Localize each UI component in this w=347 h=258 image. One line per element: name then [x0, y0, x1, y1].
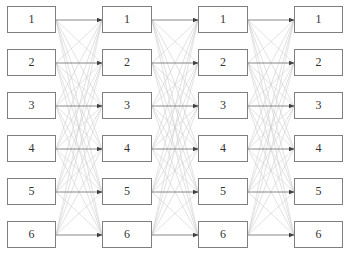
node-col1-row3: 3 — [7, 92, 56, 119]
node-col4-row3: 3 — [294, 92, 343, 119]
node-col2-row5: 5 — [102, 178, 152, 205]
cross-edges — [56, 20, 294, 235]
node-col2-row1: 1 — [102, 6, 152, 33]
node-col4-row1: 1 — [294, 6, 343, 33]
node-col1-row6: 6 — [7, 221, 56, 248]
node-col3-row2: 2 — [198, 49, 248, 76]
diagram-canvas — [0, 0, 347, 258]
node-col1-row4: 4 — [7, 135, 56, 162]
node-col3-row5: 5 — [198, 178, 248, 205]
node-col2-row3: 3 — [102, 92, 152, 119]
node-col3-row1: 1 — [198, 6, 248, 33]
node-col2-row2: 2 — [102, 49, 152, 76]
node-col3-row4: 4 — [198, 135, 248, 162]
node-col4-row2: 2 — [294, 49, 343, 76]
node-col4-row6: 6 — [294, 221, 343, 248]
node-col4-row4: 4 — [294, 135, 343, 162]
node-col2-row4: 4 — [102, 135, 152, 162]
node-col1-row5: 5 — [7, 178, 56, 205]
node-col1-row1: 1 — [7, 6, 56, 33]
node-col3-row6: 6 — [198, 221, 248, 248]
node-col1-row2: 2 — [7, 49, 56, 76]
node-col4-row5: 5 — [294, 178, 343, 205]
node-col3-row3: 3 — [198, 92, 248, 119]
node-col2-row6: 6 — [102, 221, 152, 248]
